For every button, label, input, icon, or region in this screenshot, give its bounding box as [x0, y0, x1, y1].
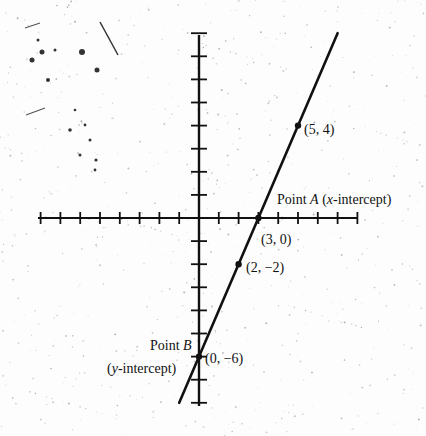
scan-smudge: [25, 22, 118, 171]
point-label-0-neg6: (0, −6): [205, 352, 243, 366]
point-label-2-neg2: (2, −2): [246, 261, 284, 275]
point-b-label: Point B: [150, 339, 192, 353]
point-b-letter: B: [183, 338, 192, 353]
point-b-rest: -intercept): [118, 361, 176, 376]
point-a-open: (: [319, 192, 327, 207]
point-a-rest: -intercept): [333, 192, 391, 207]
graph-canvas: [0, 0, 426, 436]
point-b-note: (y-intercept): [107, 362, 176, 376]
point-a-prefix: Point: [277, 192, 310, 207]
point-a-letter: A: [310, 192, 319, 207]
point-label-3-0: (3, 0): [261, 233, 291, 247]
point-a-label: Point A (x-intercept): [277, 193, 391, 207]
coordinate-plane-figure: (5, 4) Point A (x-intercept) (3, 0) (2, …: [0, 0, 426, 436]
point-label-5-4: (5, 4): [304, 123, 334, 137]
point-b-prefix: Point: [150, 338, 183, 353]
